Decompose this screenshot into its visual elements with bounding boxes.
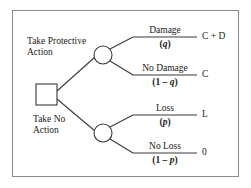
decision-tree-figure: Take Protective Action Take No Action Da… (0, 0, 251, 188)
prob-prefix-no-damage: (1 – (152, 77, 169, 87)
action-label-no-action-line1: Take No (33, 114, 65, 125)
chance-node-no-action (94, 124, 112, 142)
edge-loss-diagonal (110, 115, 133, 127)
branch-probability-loss: (p) (133, 117, 197, 128)
prob-suffix-no-damage: ) (175, 77, 178, 87)
branch-probability-no-damage: (1 – q) (133, 77, 197, 88)
outcome-value-loss: L (202, 109, 208, 120)
prob-suffix-damage: ) (167, 39, 170, 49)
branch-label-loss: Loss (133, 103, 197, 114)
branch-probability-damage: (q) (133, 39, 197, 50)
action-label-no-action-line2: Action (33, 125, 65, 136)
branch-label-no-damage: No Damage (133, 63, 197, 74)
prob-suffix-loss: ) (167, 117, 170, 127)
action-label-no-action: Take No Action (33, 114, 65, 135)
edge-no-loss-diagonal (110, 139, 133, 153)
branch-label-no-loss: No Loss (133, 141, 197, 152)
prob-prefix-no-loss: (1 – (152, 155, 169, 165)
branch-probability-no-loss: (1 – p) (133, 155, 197, 166)
prob-suffix-no-loss: ) (175, 155, 178, 165)
action-label-protective-line1: Take Protective (27, 36, 86, 47)
branch-label-damage: Damage (133, 25, 197, 36)
edge-no-damage-diagonal (110, 61, 133, 75)
decision-node-square (36, 84, 57, 105)
action-label-protective-line2: Action (27, 47, 86, 58)
outcome-value-damage: C + D (202, 31, 225, 42)
action-label-protective: Take Protective Action (27, 36, 86, 57)
edge-to-protective-chance (57, 57, 95, 91)
outcome-value-no-damage: C (202, 69, 208, 80)
outcome-value-no-loss: 0 (202, 147, 207, 158)
edge-damage-diagonal (110, 37, 133, 49)
decision-tree-lines (0, 0, 251, 188)
chance-node-protective (94, 46, 112, 64)
